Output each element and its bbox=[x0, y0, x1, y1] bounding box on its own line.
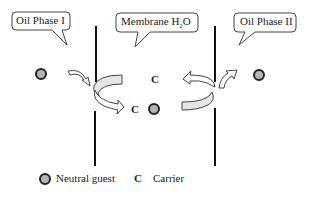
neutral-guest-oil1 bbox=[36, 69, 46, 79]
legend-guest-icon bbox=[40, 174, 50, 184]
neutral-guest-membrane bbox=[149, 104, 159, 114]
neutral-guest-oil2 bbox=[254, 70, 264, 80]
membrane-suffix: O bbox=[183, 15, 191, 27]
entry-arrow-icon bbox=[68, 70, 90, 86]
exit-arrow-icon bbox=[219, 70, 237, 88]
callout-oil-phase-2-label: Oil Phase II bbox=[240, 15, 293, 27]
legend-guest-label: Neutral guest bbox=[56, 172, 115, 184]
legend-carrier-label: Carrier bbox=[153, 172, 184, 184]
legend-carrier-symbol: C bbox=[134, 172, 142, 184]
left-rotation-arrow-icon bbox=[94, 75, 124, 114]
membrane-text: Membrane H bbox=[121, 15, 179, 27]
callout-membrane-label: Membrane H2O bbox=[121, 15, 191, 30]
carrier-label-bottom: C bbox=[131, 103, 139, 115]
callout-oil-phase-1-label: Oil Phase I bbox=[16, 14, 65, 26]
carrier-label-top: C bbox=[151, 73, 159, 85]
right-rotation-arrow-icon bbox=[182, 71, 215, 110]
